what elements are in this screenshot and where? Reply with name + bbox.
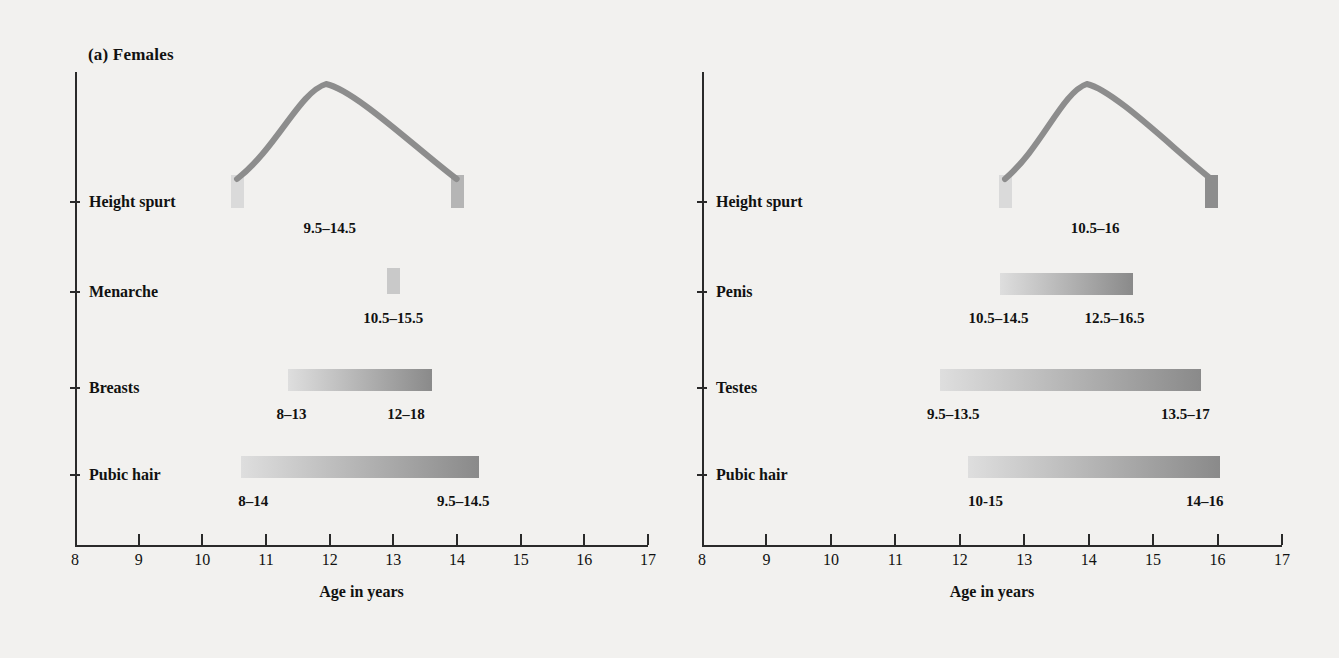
x-axis-caption-males: Age in years [950,583,1034,601]
panel-males: (b) Males [678,0,1339,658]
x-tick-label-males-16: 16 [1210,551,1226,569]
x-tick-females-12 [329,534,331,545]
bar-females-3 [241,456,480,478]
x-tick-label-males-17: 17 [1274,551,1290,569]
range-label-males-1-0: 10.5–14.5 [968,310,1028,327]
x-tick-label-males-14: 14 [1081,551,1097,569]
y-tick-females-3 [70,474,80,476]
row-label-males-2: Testes [716,379,757,397]
range-label-males-3-1: 14–16 [1186,493,1224,510]
x-tick-females-9 [138,534,140,545]
x-tick-label-females-8: 8 [71,551,79,569]
x-tick-label-females-11: 11 [258,551,273,569]
x-tick-females-16 [583,534,585,545]
row-label-females-2: Breasts [89,379,139,397]
x-tick-males-12 [959,534,961,545]
y-tick-males-2 [697,387,707,389]
x-tick-label-females-16: 16 [576,551,592,569]
row-label-females-0: Height spurt [89,193,176,211]
range-label-males-2-0: 9.5–13.5 [927,406,980,423]
x-axis-caption-females: Age in years [319,583,403,601]
y-tick-females-1 [70,291,80,293]
x-tick-label-females-15: 15 [513,551,529,569]
curve-end-cap-females [451,175,464,208]
x-axis-males [702,545,1282,547]
range-label-males-2-1: 13.5–17 [1161,406,1210,423]
x-tick-label-males-13: 13 [1016,551,1032,569]
row-label-females-3: Pubic hair [89,466,161,484]
x-tick-label-females-10: 10 [194,551,210,569]
x-tick-label-males-12: 12 [952,551,968,569]
range-label-females-3-0: 8–14 [238,493,268,510]
x-tick-males-10 [830,534,832,545]
bar-males-2 [940,369,1200,391]
bar-females-2 [288,369,431,391]
range-label-females-3-1: 9.5–14.5 [437,493,490,510]
range-label-females-2-1: 12–18 [387,406,425,423]
range-label-females-2-0: 8–13 [276,406,306,423]
x-tick-label-females-9: 9 [135,551,143,569]
range-label-males-1-1: 12.5–16.5 [1084,310,1144,327]
row-label-males-0: Height spurt [716,193,803,211]
x-tick-females-14 [456,534,458,545]
x-tick-males-16 [1217,534,1219,545]
x-tick-males-15 [1152,534,1154,545]
x-tick-label-females-13: 13 [385,551,401,569]
x-tick-males-11 [894,534,896,545]
range-label-males-3-0: 10-15 [968,493,1003,510]
curve-start-cap-females [231,175,244,208]
curve-end-cap-males [1205,175,1218,208]
x-tick-label-males-10: 10 [823,551,839,569]
x-tick-males-14 [1088,534,1090,545]
row-label-males-3: Pubic hair [716,466,788,484]
bar-males-3 [968,456,1220,478]
x-tick-label-males-11: 11 [888,551,903,569]
row-label-females-1: Menarche [89,283,158,301]
x-tick-males-17 [1281,534,1283,545]
y-tick-females-0 [70,201,80,203]
block-females-1 [387,268,400,294]
x-tick-label-females-12: 12 [322,551,338,569]
range-label-females-1-0: 10.5–15.5 [363,310,423,327]
x-tick-females-10 [201,534,203,545]
curve-start-cap-males [999,175,1012,208]
y-tick-females-2 [70,387,80,389]
y-tick-males-0 [697,201,707,203]
x-tick-females-15 [520,534,522,545]
bar-males-1 [1000,273,1133,295]
x-tick-label-males-15: 15 [1145,551,1161,569]
x-tick-label-males-8: 8 [698,551,706,569]
range-label-males-0-0: 10.5–16 [1071,220,1120,237]
x-tick-label-females-14: 14 [449,551,465,569]
x-axis-females [75,545,648,547]
x-tick-males-9 [765,534,767,545]
y-tick-males-1 [697,291,707,293]
x-tick-label-males-9: 9 [762,551,770,569]
range-label-females-0-0: 9.5–14.5 [303,220,356,237]
panel-title-females: (a) Females [88,45,174,65]
row-label-males-1: Penis [716,283,752,301]
x-tick-label-females-17: 17 [640,551,656,569]
x-tick-males-13 [1023,534,1025,545]
x-tick-females-17 [647,534,649,545]
y-tick-males-3 [697,474,707,476]
x-tick-females-11 [265,534,267,545]
x-tick-females-13 [392,534,394,545]
